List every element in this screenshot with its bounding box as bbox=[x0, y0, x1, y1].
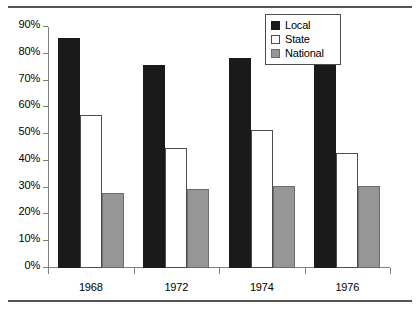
y-tick-label: 20% bbox=[19, 206, 40, 217]
top-divider-rule bbox=[8, 6, 412, 8]
bar-chart: 0%10%20%30%40%50%60%70%80%90% 1968197219… bbox=[0, 0, 420, 309]
legend-item-state: State bbox=[271, 32, 335, 46]
bar-local-1968 bbox=[58, 38, 80, 268]
x-axis-tick-mark bbox=[219, 268, 220, 274]
y-tick-mark bbox=[43, 53, 48, 54]
chart-legend: Local State National bbox=[265, 14, 341, 65]
bar-national-1974 bbox=[273, 186, 295, 268]
y-tick-mark bbox=[43, 240, 48, 241]
y-tick-label: 60% bbox=[19, 99, 40, 110]
y-tick-mark bbox=[43, 160, 48, 161]
legend-swatch-state-icon bbox=[271, 35, 280, 44]
y-tick-label: 40% bbox=[19, 153, 40, 164]
legend-label-state: State bbox=[285, 33, 310, 45]
y-tick-label: 90% bbox=[19, 19, 40, 30]
x-axis-label-1976: 1976 bbox=[305, 281, 391, 293]
legend-label-national: National bbox=[285, 47, 324, 59]
bar-state-1974 bbox=[251, 130, 273, 268]
bar-state-1976 bbox=[336, 153, 358, 268]
y-tick-label: 0% bbox=[25, 260, 41, 271]
legend-item-local: Local bbox=[271, 18, 335, 32]
y-tick-mark bbox=[43, 26, 48, 27]
y-tick-label: 10% bbox=[19, 233, 40, 244]
y-tick-label: 30% bbox=[19, 180, 40, 191]
y-tick-mark bbox=[43, 133, 48, 134]
bar-local-1976 bbox=[314, 65, 336, 269]
legend-swatch-national-icon bbox=[271, 49, 280, 58]
bar-national-1968 bbox=[102, 193, 124, 268]
x-axis-tick-mark bbox=[390, 268, 391, 274]
legend-swatch-local-icon bbox=[271, 21, 280, 30]
legend-label-local: Local bbox=[285, 19, 310, 31]
y-tick-label: 80% bbox=[19, 46, 40, 57]
bar-local-1972 bbox=[143, 65, 165, 269]
x-axis-tick-mark bbox=[48, 268, 49, 274]
y-tick-mark bbox=[43, 187, 48, 188]
x-axis-label-1974: 1974 bbox=[219, 281, 305, 293]
x-axis-tick-mark bbox=[305, 268, 306, 274]
y-tick-mark bbox=[43, 80, 48, 81]
bar-national-1972 bbox=[187, 189, 209, 268]
y-tick-mark bbox=[43, 106, 48, 107]
bottom-divider-rule bbox=[8, 300, 412, 302]
x-axis-tick-mark bbox=[134, 268, 135, 274]
y-tick-mark bbox=[43, 213, 48, 214]
bar-state-1968 bbox=[80, 115, 102, 268]
legend-item-national: National bbox=[271, 46, 335, 60]
bar-state-1972 bbox=[165, 148, 187, 269]
y-tick-label: 70% bbox=[19, 73, 40, 84]
x-axis-label-1968: 1968 bbox=[48, 281, 134, 293]
bar-local-1974 bbox=[229, 58, 251, 268]
x-axis-label-1972: 1972 bbox=[134, 281, 220, 293]
y-tick-label: 50% bbox=[19, 126, 40, 137]
bar-national-1976 bbox=[358, 186, 380, 268]
